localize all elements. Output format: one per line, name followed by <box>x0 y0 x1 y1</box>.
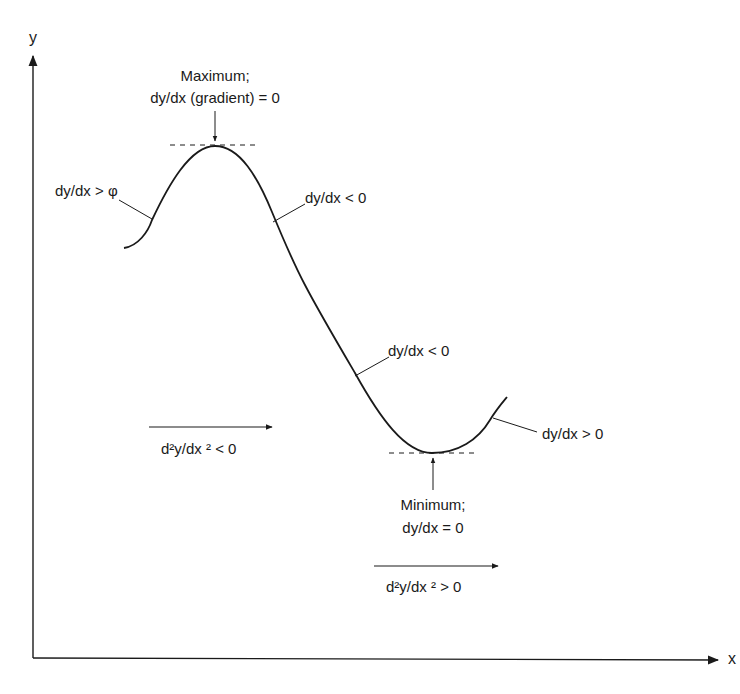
falling-upper-label: dy/dx < 0 <box>305 189 366 207</box>
rising-left-label: dy/dx > φ <box>55 182 118 200</box>
x-axis-label: x <box>728 650 736 668</box>
maximum-label-line1: Maximum; <box>130 67 300 85</box>
leader-falling-lower <box>355 357 389 376</box>
concave-down-label: d²y/dx ² < 0 <box>161 440 236 458</box>
leader-falling-upper <box>273 204 305 222</box>
falling-lower-label: dy/dx < 0 <box>388 342 449 360</box>
minimum-label-line1: Minimum; <box>373 496 493 514</box>
diagram-canvas <box>0 0 740 694</box>
x-axis <box>33 658 718 660</box>
y-axis-label: y <box>29 29 37 47</box>
rising-right-label: dy/dx > 0 <box>542 425 603 443</box>
minimum-label-line2: dy/dx = 0 <box>373 519 493 537</box>
leader-rising-left <box>119 200 152 219</box>
leader-rising-right <box>493 418 537 432</box>
maximum-label-line2: dy/dx (gradient) = 0 <box>120 89 310 107</box>
concave-up-label: d²y/dx ² > 0 <box>386 578 461 596</box>
